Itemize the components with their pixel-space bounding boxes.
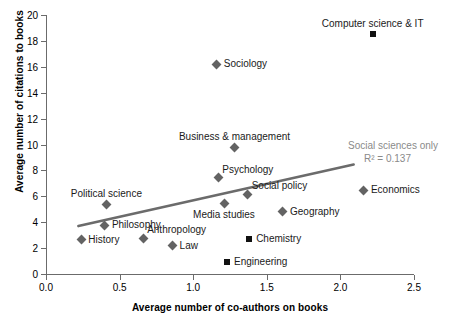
data-point-label: History — [88, 234, 119, 245]
data-point-marker — [246, 236, 252, 242]
y-tick-12 — [41, 119, 46, 120]
data-point-label: Business & management — [179, 131, 290, 142]
y-tick-label-16: 16 — [0, 61, 38, 72]
y-tick-label-2: 2 — [0, 243, 38, 254]
x-tick-2.5 — [414, 275, 415, 280]
data-point-marker — [278, 207, 288, 217]
data-point-marker — [224, 259, 230, 265]
data-point-label: Psychology — [222, 164, 273, 175]
x-tick-label-2.5: 2.5 — [394, 282, 434, 293]
y-tick-4 — [41, 222, 46, 223]
x-tick-label-1.0: 1.0 — [173, 282, 213, 293]
y-tick-label-10: 10 — [0, 139, 38, 150]
trendline-annotation-r2: R² = 0.137 — [364, 153, 411, 164]
data-point-marker — [370, 31, 376, 37]
data-point-label: Media studies — [193, 209, 255, 220]
y-tick-2 — [41, 248, 46, 249]
data-point-label: Anthropology — [147, 224, 206, 235]
data-point-label: Computer science & IT — [322, 18, 424, 29]
x-tick-0.5 — [120, 275, 121, 280]
y-tick-label-6: 6 — [0, 191, 38, 202]
data-point-marker — [359, 186, 369, 196]
y-tick-8 — [41, 170, 46, 171]
data-point-label: Economics — [371, 184, 420, 195]
y-tick-label-14: 14 — [0, 87, 38, 98]
x-tick-label-2.0: 2.0 — [320, 282, 360, 293]
data-point-label: Political science — [71, 188, 142, 199]
x-tick-label-1.5: 1.5 — [247, 282, 287, 293]
y-tick-label-0: 0 — [0, 269, 38, 280]
data-point-marker — [212, 59, 222, 69]
scatter-chart: Average number of citations to books Ave… — [0, 0, 456, 321]
y-tick-label-18: 18 — [0, 35, 38, 46]
x-axis-line — [46, 274, 414, 275]
data-point-label: Social policy — [252, 180, 308, 191]
data-point-label: Engineering — [234, 256, 287, 267]
data-point-marker — [101, 199, 111, 209]
y-axis-line — [46, 15, 47, 275]
y-tick-label-8: 8 — [0, 165, 38, 176]
data-point-marker — [168, 241, 178, 251]
y-tick-label-4: 4 — [0, 217, 38, 228]
x-tick-label-0.0: 0.0 — [26, 282, 66, 293]
x-tick-1.0 — [193, 275, 194, 280]
trendline-annotation-title: Social sciences only — [348, 140, 438, 151]
x-tick-0.0 — [46, 275, 47, 280]
data-point-label: Sociology — [224, 58, 267, 69]
x-tick-label-0.5: 0.5 — [100, 282, 140, 293]
data-point-label: Law — [180, 240, 198, 251]
y-tick-6 — [41, 196, 46, 197]
data-point-label: Geography — [290, 206, 339, 217]
y-tick-label-20: 20 — [0, 10, 38, 21]
data-point-marker — [100, 220, 110, 230]
data-point-marker — [76, 235, 86, 245]
y-tick-18 — [41, 41, 46, 42]
data-point-marker — [229, 142, 239, 152]
y-tick-16 — [41, 67, 46, 68]
data-point-label: Chemistry — [256, 233, 301, 244]
y-tick-20 — [41, 15, 46, 16]
x-tick-1.5 — [267, 275, 268, 280]
data-point-marker — [219, 198, 229, 208]
y-tick-14 — [41, 93, 46, 94]
x-tick-2.0 — [340, 275, 341, 280]
x-axis-title: Average number of co-authors on books — [46, 302, 414, 313]
y-tick-10 — [41, 145, 46, 146]
y-tick-label-12: 12 — [0, 113, 38, 124]
